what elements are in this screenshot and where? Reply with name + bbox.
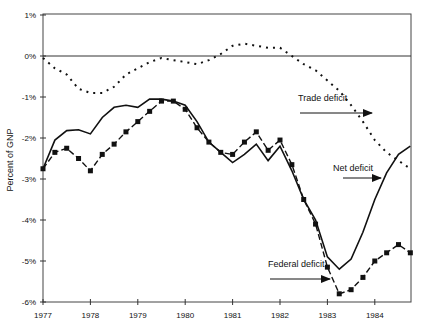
data-point-marker	[289, 162, 294, 167]
data-point-marker	[301, 197, 306, 202]
data-point-marker	[266, 148, 271, 153]
data-point-marker	[123, 129, 128, 134]
y-tick-label: 1%	[24, 11, 36, 20]
series-trade-deficit	[43, 44, 410, 169]
annotation-federal-deficit: Federal deficit	[268, 259, 330, 279]
y-tick-label: -4%	[22, 216, 36, 225]
annotation-label: Net deficit	[333, 163, 374, 173]
y-tick-label: -6%	[22, 298, 36, 307]
data-point-marker	[41, 166, 46, 171]
data-point-marker	[242, 140, 247, 145]
data-point-marker	[396, 242, 401, 247]
data-point-marker	[372, 259, 377, 264]
x-tick-label: 1979	[129, 311, 147, 320]
data-point-marker	[147, 109, 152, 114]
x-tick-label: 1983	[319, 311, 337, 320]
deficit-line-chart: 1%0%-1%-2%-3%-4%-5%-6% 19771978197919801…	[0, 0, 425, 328]
y-tick-label: -1%	[22, 93, 36, 102]
data-point-marker	[52, 150, 57, 155]
x-tick-label: 1980	[176, 311, 194, 320]
x-tick-label: 1981	[224, 311, 242, 320]
series-net-deficit	[43, 99, 410, 269]
data-point-marker	[360, 275, 365, 280]
annotation-trade-deficit: Trade deficit	[298, 93, 372, 113]
y-tick-label: -2%	[22, 134, 36, 143]
data-point-marker	[135, 119, 140, 124]
y-axis: 1%0%-1%-2%-3%-4%-5%-6%	[22, 11, 46, 307]
data-point-marker	[218, 150, 223, 155]
data-point-marker	[159, 99, 164, 104]
annotation-label: Trade deficit	[298, 93, 348, 103]
annotation-label: Federal deficit	[268, 259, 325, 269]
data-point-marker	[384, 250, 389, 255]
data-point-marker	[408, 250, 413, 255]
data-point-marker	[230, 152, 235, 157]
data-point-marker	[337, 291, 342, 296]
data-point-marker	[76, 156, 81, 161]
data-point-marker	[254, 129, 259, 134]
data-point-marker	[349, 287, 354, 292]
data-point-marker	[325, 265, 330, 270]
annotation-net-deficit: Net deficit	[333, 163, 381, 178]
data-point-marker	[195, 125, 200, 130]
data-point-marker	[88, 168, 93, 173]
data-point-marker	[112, 142, 117, 147]
data-point-marker	[183, 107, 188, 112]
data-point-marker	[100, 152, 105, 157]
y-axis-label: Percent of GNP	[5, 128, 15, 191]
data-point-marker	[313, 222, 318, 227]
y-tick-label: 0%	[24, 52, 36, 61]
data-point-marker	[206, 140, 211, 145]
data-point-marker	[171, 99, 176, 104]
series-federal-deficit	[43, 101, 410, 294]
x-tick-label: 1977	[34, 311, 52, 320]
x-tick-label: 1982	[271, 311, 289, 320]
x-tick-label: 1978	[82, 311, 100, 320]
y-tick-label: -3%	[22, 175, 36, 184]
data-point-marker	[278, 138, 283, 143]
y-tick-label: -5%	[22, 257, 36, 266]
x-tick-label: 1984	[366, 311, 384, 320]
data-point-marker	[64, 146, 69, 151]
